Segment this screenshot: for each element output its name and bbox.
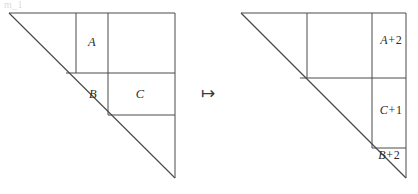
label-b2-num: 2 <box>394 148 400 162</box>
label-b2-base: B <box>378 148 386 162</box>
label-a2-num: 2 <box>396 33 402 47</box>
label-c1-base: C <box>380 103 388 117</box>
label-c1-num: 1 <box>396 103 402 117</box>
label-region-a-plus-2: A+2 <box>380 34 402 46</box>
label-region-a-base: A <box>88 35 96 49</box>
label-region-a: A <box>88 36 96 49</box>
mapsto-arrow-icon: ↦ <box>201 85 215 102</box>
label-region-b: B <box>89 88 97 101</box>
label-c1-op: + <box>388 103 396 117</box>
label-b2-op: + <box>386 148 394 162</box>
label-region-c-plus-1: C+1 <box>380 104 402 116</box>
label-a2-base: A <box>380 33 388 47</box>
label-region-b-base: B <box>89 87 97 101</box>
label-region-c-base: C <box>136 87 145 101</box>
label-a2-op: + <box>388 33 396 47</box>
label-region-c: C <box>136 88 145 101</box>
label-region-b-plus-2: B+2 <box>378 149 400 161</box>
figure-root: m_1 <box>0 0 418 194</box>
